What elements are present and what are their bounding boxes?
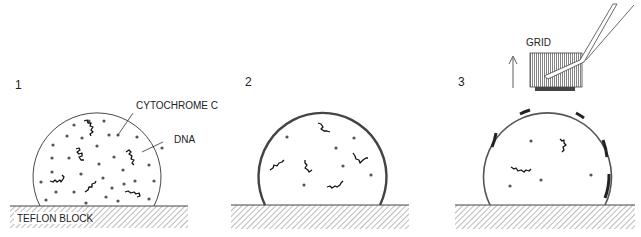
dna-strands (50, 120, 140, 197)
cytochrome-c-molecules (39, 119, 163, 204)
cytochrome-c-molecules-3 (508, 139, 592, 187)
dna-strands-3 (511, 139, 566, 172)
grid-label: GRID (526, 37, 551, 48)
cytochrome-leader-line (118, 113, 133, 135)
teflon-block-label: TEFLON BLOCK (17, 213, 93, 224)
panel-1: 1 TEFLON BLOCK (10, 78, 218, 228)
grid (530, 53, 582, 87)
droplet-outline-3 (483, 113, 611, 205)
grid-film (535, 87, 575, 91)
teflon-block-3 (455, 205, 635, 229)
panel-3: 3 GRID (455, 4, 635, 229)
cytochrome-c-label: CYTOCHROME C (136, 100, 218, 111)
panel-2: 2 (231, 75, 409, 229)
grid-with-tweezers: GRID (509, 4, 634, 91)
panel-1-number: 1 (15, 78, 22, 92)
dna-leader-line (142, 142, 163, 152)
panel-2-number: 2 (245, 75, 252, 89)
dna-strands-2 (270, 123, 368, 188)
teflon-block-2 (231, 205, 409, 229)
diagram-canvas: 1 TEFLON BLOCK (0, 0, 641, 237)
dna-label: DNA (174, 134, 195, 145)
panel-3-number: 3 (458, 75, 465, 89)
